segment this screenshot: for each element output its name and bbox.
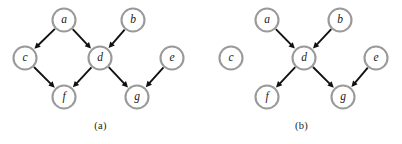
edge-b-to-d (111, 30, 124, 45)
edge-a-to-d (73, 29, 88, 45)
edge-d-to-g (313, 67, 331, 85)
node-g[interactable]: g (126, 86, 149, 109)
figure-two-dag-diagrams: abcdefg (a) abcdefg (b) (0, 0, 402, 144)
edge-e-to-g (149, 67, 164, 84)
edge-d-to-f (76, 67, 92, 84)
node-b[interactable]: b (122, 9, 145, 32)
node-b[interactable]: b (329, 9, 352, 32)
nodes-group-a: abcdefg (14, 9, 184, 109)
node-c[interactable]: c (14, 47, 37, 70)
node-label-c: c (22, 51, 27, 63)
caption-a: (a) (0, 120, 201, 131)
edge-a-to-c (38, 29, 55, 46)
node-d[interactable]: d (293, 47, 316, 70)
panel-b: abcdefg (b) (201, 0, 402, 144)
node-label-d: d (301, 51, 307, 63)
node-label-a: a (264, 13, 270, 25)
node-g[interactable]: g (332, 86, 355, 109)
edge-e-to-g (354, 68, 368, 84)
node-e[interactable]: e (365, 47, 388, 70)
edge-c-to-f (34, 67, 52, 85)
node-d[interactable]: d (89, 47, 112, 70)
node-label-b: b (337, 13, 343, 25)
node-a[interactable]: a (53, 9, 76, 32)
node-label-g: g (134, 90, 140, 103)
edge-d-to-f (279, 67, 295, 84)
nodes-group-b: abcdefg (220, 9, 388, 109)
node-label-e: e (373, 51, 378, 63)
caption-b: (b) (201, 120, 402, 131)
node-label-e: e (169, 51, 174, 63)
node-a[interactable]: a (256, 9, 279, 32)
edge-d-to-g (109, 67, 125, 84)
edge-b-to-d (316, 29, 331, 45)
panel-a: abcdefg (a) (0, 0, 201, 144)
edge-a-to-d (276, 29, 292, 45)
graph-b: abcdefg (201, 0, 402, 118)
edges-group-b (276, 29, 368, 88)
node-e[interactable]: e (161, 47, 184, 70)
node-f[interactable]: f (53, 86, 76, 109)
node-label-a: a (61, 13, 67, 25)
node-label-g: g (340, 90, 346, 103)
node-f[interactable]: f (256, 86, 279, 109)
graph-a: abcdefg (0, 0, 201, 118)
node-label-c: c (228, 51, 233, 63)
node-label-b: b (130, 13, 136, 25)
node-label-d: d (97, 51, 103, 63)
node-c[interactable]: c (220, 47, 243, 70)
